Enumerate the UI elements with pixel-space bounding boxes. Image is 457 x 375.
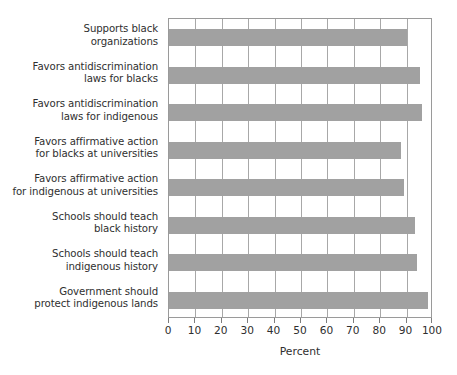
- x-axis-title: Percent: [168, 345, 432, 358]
- category-label: Favors affirmative actionfor indigenous …: [0, 173, 158, 198]
- plot-area: [168, 18, 432, 318]
- x-axis-tick-label: 80: [372, 324, 385, 336]
- x-axis-ticks: [168, 318, 432, 323]
- x-axis-tick-label: 100: [422, 324, 442, 336]
- bar: [169, 104, 422, 121]
- category-label-line: organizations: [0, 36, 158, 48]
- bar: [169, 179, 404, 196]
- x-axis-tick: [247, 318, 248, 323]
- gridline: [380, 19, 381, 317]
- category-label: Supports blackorganizations: [0, 23, 158, 48]
- x-axis-tick-label: 30: [240, 324, 253, 336]
- category-label-line: for blacks at universities: [0, 148, 158, 160]
- category-label-line: laws for blacks: [0, 73, 158, 85]
- category-label-line: Schools should teach: [0, 248, 158, 260]
- gridline: [301, 19, 302, 317]
- category-label-line: black history: [0, 223, 158, 235]
- x-axis-tick-label: 40: [267, 324, 280, 336]
- x-axis-tick-labels: 0102030405060708090100: [168, 324, 432, 340]
- x-axis-tick: [221, 318, 222, 323]
- x-axis-tick: [168, 318, 169, 323]
- x-axis-tick: [326, 318, 327, 323]
- category-label-line: protect indigenous lands: [0, 298, 158, 310]
- x-axis-tick: [300, 318, 301, 323]
- bar: [169, 254, 417, 271]
- category-label-line: laws for indigenous: [0, 111, 158, 123]
- x-axis-tick-label: 70: [346, 324, 359, 336]
- category-label: Schools should teachblack history: [0, 211, 158, 236]
- x-axis-tick: [194, 318, 195, 323]
- category-label-line: indigenous history: [0, 261, 158, 273]
- x-axis-tick-label: 0: [165, 324, 172, 336]
- x-axis-tick: [406, 318, 407, 323]
- category-label-line: Favors affirmative action: [0, 136, 158, 148]
- bar: [169, 142, 401, 159]
- x-axis-tick: [353, 318, 354, 323]
- category-label-line: Government should: [0, 286, 158, 298]
- category-axis: Supports blackorganizationsFavors antidi…: [0, 18, 163, 318]
- category-label-line: Favors antidiscrimination: [0, 61, 158, 73]
- gridline: [248, 19, 249, 317]
- bar-chart: Supports blackorganizationsFavors antidi…: [0, 0, 457, 375]
- gridline: [222, 19, 223, 317]
- x-axis-tick: [431, 318, 432, 323]
- x-axis-tick-label: 90: [399, 324, 412, 336]
- gridline: [327, 19, 328, 317]
- category-label-line: for indigenous at universities: [0, 186, 158, 198]
- category-label-line: Favors affirmative action: [0, 173, 158, 185]
- bar: [169, 29, 407, 46]
- gridline: [407, 19, 408, 317]
- category-label: Favors affirmative actionfor blacks at u…: [0, 136, 158, 161]
- category-label: Favors antidiscriminationlaws for indige…: [0, 98, 158, 123]
- category-label: Government shouldprotect indigenous land…: [0, 286, 158, 311]
- bar: [169, 217, 415, 234]
- category-label-line: Supports black: [0, 23, 158, 35]
- x-axis-tick-label: 10: [188, 324, 201, 336]
- gridline: [195, 19, 196, 317]
- x-axis-tick-label: 20: [214, 324, 227, 336]
- bar: [169, 292, 428, 309]
- category-label: Favors antidiscriminationlaws for blacks: [0, 61, 158, 86]
- x-axis-tick: [379, 318, 380, 323]
- x-axis-tick: [274, 318, 275, 323]
- category-label-line: Schools should teach: [0, 211, 158, 223]
- bar: [169, 67, 420, 84]
- category-label-line: Favors antidiscrimination: [0, 98, 158, 110]
- x-axis-tick-label: 50: [293, 324, 306, 336]
- gridline: [354, 19, 355, 317]
- x-axis-tick-label: 60: [320, 324, 333, 336]
- category-label: Schools should teachindigenous history: [0, 248, 158, 273]
- gridline: [275, 19, 276, 317]
